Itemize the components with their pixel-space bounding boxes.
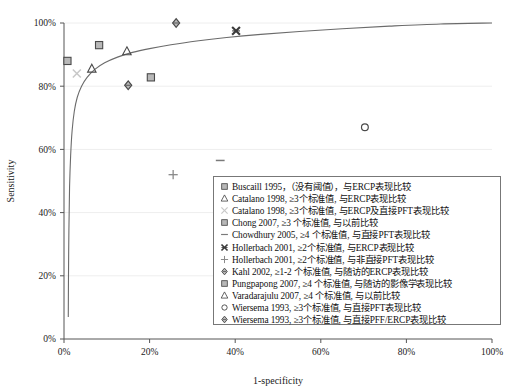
marker-square: [222, 280, 228, 286]
marker-square: [95, 42, 102, 49]
data-point: [169, 170, 178, 179]
chart-page: 0%20%40%60%80%100%0%20%40%60%80%100% 1-s…: [0, 0, 511, 391]
y-tick-label: 0%: [43, 334, 56, 344]
data-point: [232, 27, 240, 35]
y-tick-label: 40%: [39, 208, 57, 218]
x-tick-label: 80%: [398, 347, 416, 357]
marker-triangle: [221, 292, 228, 298]
legend-marker-circle-icon: [218, 301, 231, 313]
legend-marker-square-icon: [218, 216, 231, 228]
marker-triangle: [221, 195, 228, 201]
data-point: [147, 74, 154, 81]
x-axis-title: 1-specificity: [253, 375, 303, 386]
marker-triangle: [88, 64, 96, 72]
legend-marker-plus-icon: [218, 253, 231, 265]
legend-marker-triangle-icon: [218, 289, 231, 301]
legend-marker-diamond-icon: [218, 265, 231, 277]
data-point: [361, 124, 368, 131]
data-point: [125, 81, 132, 90]
data-point: [88, 64, 96, 72]
legend-marker-x-bold-icon: [218, 241, 231, 253]
legend-marker-square-icon: [218, 180, 231, 192]
legend-item-label: Wiersema 1993, ≥3个标准值, 与直接PFF/ERCP表现比较: [232, 312, 446, 326]
y-tick-label: 20%: [39, 271, 57, 281]
data-point: [73, 70, 81, 78]
marker-circle: [361, 124, 368, 131]
x-tick-label: 0%: [58, 347, 71, 357]
data-point: [64, 57, 71, 64]
data-point: [95, 42, 102, 49]
data-point: [173, 19, 180, 28]
x-tick-label: 40%: [226, 347, 244, 357]
legend-marker-dash-icon: [218, 228, 231, 240]
marker-square: [147, 74, 154, 81]
x-tick-label: 100%: [481, 347, 503, 357]
y-tick-label: 80%: [39, 82, 57, 92]
legend-marker-x-light-icon: [218, 204, 231, 216]
legend-marker-triangle-icon: [218, 192, 231, 204]
x-tick-label: 60%: [312, 347, 330, 357]
y-axis-title: Sensitivity: [5, 160, 16, 203]
legend-item: Wiersema 1993, ≥3个标准值, 与直接PFF/ERCP表现比较: [218, 313, 496, 325]
x-tick-label: 20%: [141, 347, 159, 357]
marker-square: [64, 57, 71, 64]
legend-marker-square-icon: [218, 277, 231, 289]
marker-circle: [222, 305, 227, 310]
data-points: [64, 19, 368, 180]
marker-square: [222, 220, 228, 226]
y-tick-label: 100%: [34, 18, 56, 28]
marker-square: [222, 184, 228, 190]
chart-legend: Buscaill 1995，（没有阈值），与ERCP表现比较Catalano 1…: [213, 176, 501, 325]
legend-marker-diamond-icon: [218, 313, 231, 325]
y-tick-label: 60%: [39, 145, 57, 155]
